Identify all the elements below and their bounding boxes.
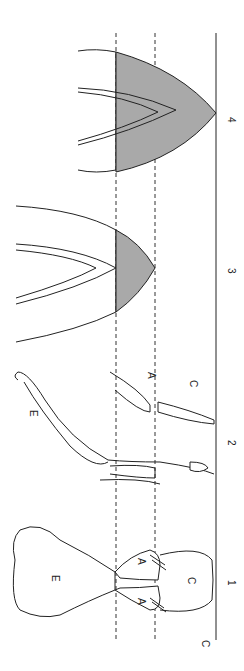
part-label-c-stage-1: C <box>186 577 197 584</box>
part-label-a-stage-2: A <box>146 372 157 379</box>
stage-2 <box>15 372 214 484</box>
part-label-a-stage-1-bottom: A <box>136 598 147 605</box>
part-label-c-stage-2-lower: C <box>200 640 211 647</box>
part-label-a-stage-1-top: A <box>136 558 147 565</box>
stage-label-1: 1 <box>226 580 237 586</box>
stage-1 <box>13 527 213 617</box>
stage-4 <box>78 50 216 172</box>
stage-label-2: 2 <box>226 440 237 446</box>
part-label-e-stage-1: E <box>50 575 61 582</box>
part-label-c-stage-2: C <box>188 380 199 387</box>
stage-label-3: 3 <box>226 268 237 274</box>
developmental-stages-diagram: 4 3 2 1 A C E C E A A C <box>0 0 244 671</box>
stage-label-4: 4 <box>226 117 237 123</box>
part-label-e-stage-2: E <box>28 410 39 417</box>
stage-3 <box>16 206 155 342</box>
